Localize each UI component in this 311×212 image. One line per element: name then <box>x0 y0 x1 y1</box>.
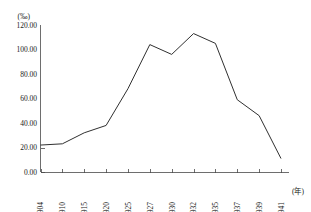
x-axis-tick-label: 1915 <box>80 202 89 212</box>
line-chart: (‰) 0.0020.0040.0060.0080.00100.00120.00… <box>0 0 311 212</box>
x-axis-tick-label: 1930 <box>168 202 177 212</box>
x-axis-tick-label: 1941 <box>277 202 286 212</box>
y-axis-tick-label: 120.00 <box>16 21 37 30</box>
y-axis-tick-label: 20.00 <box>20 143 37 152</box>
x-axis-tick-labels: 1904191019151920192519271930193219351937… <box>36 202 285 212</box>
x-axis-tick-label: 1910 <box>58 202 67 212</box>
x-axis-tick-marks <box>42 169 282 173</box>
y-axis-tick-label: 80.00 <box>20 70 37 79</box>
x-axis-tick-label: 1904 <box>36 202 45 212</box>
x-axis-unit-label: (年) <box>292 186 304 196</box>
y-axis-tick-label: 60.00 <box>20 94 37 103</box>
y-axis-tick-labels: 0.0020.0040.0060.0080.00100.00120.00 <box>16 21 37 177</box>
x-axis-tick-label: 1932 <box>189 202 198 212</box>
x-axis-tick-label: 1927 <box>146 202 155 212</box>
x-axis-tick-label: 1920 <box>102 202 111 212</box>
y-axis-tick-label: 100.00 <box>16 45 37 54</box>
y-axis-tick-label: 0.00 <box>24 168 37 177</box>
chart-canvas: (‰) 0.0020.0040.0060.0080.00100.00120.00… <box>0 0 311 212</box>
x-axis-tick-label: 1935 <box>211 202 220 212</box>
data-series-line <box>41 34 282 159</box>
y-axis-tick-label: 40.00 <box>20 119 37 128</box>
x-axis-tick-label: 1937 <box>233 202 242 212</box>
x-axis-tick-label: 1925 <box>124 202 133 212</box>
x-axis-tick-label: 1939 <box>255 202 264 212</box>
